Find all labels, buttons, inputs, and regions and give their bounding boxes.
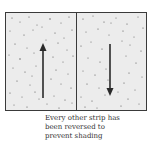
- caption-line: Every other strip has: [45, 114, 120, 123]
- strips-diagram: [5, 12, 147, 111]
- diagram-caption: Every other strip has been reversed to p…: [45, 114, 120, 141]
- strip-right: [78, 13, 147, 110]
- caption-line: prevent shading: [45, 132, 120, 141]
- strip-left: [6, 13, 77, 110]
- arrow-down-icon: [105, 44, 115, 96]
- caption-line: been reversed to: [45, 123, 120, 132]
- arrow-up-icon: [38, 43, 48, 99]
